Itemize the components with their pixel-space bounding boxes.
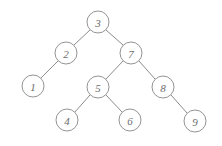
node-label-7: 7 [128, 48, 134, 60]
tree-node-8: 8 [152, 76, 174, 98]
node-layer: 327158469 [22, 11, 206, 132]
tree-node-2: 2 [55, 42, 77, 64]
node-label-8: 8 [160, 82, 166, 94]
tree-edge-n8-n9 [171, 95, 187, 113]
tree-edge-n7-n5 [106, 61, 123, 79]
tree-edge-n3-n7 [106, 30, 123, 45]
tree-node-3: 3 [87, 11, 109, 33]
tree-canvas: 327158469 [0, 0, 222, 146]
node-label-5: 5 [95, 82, 101, 94]
node-label-4: 4 [64, 115, 70, 127]
node-label-1: 1 [30, 81, 36, 93]
node-label-6: 6 [127, 115, 133, 127]
tree-edge-n3-n2 [74, 30, 90, 45]
node-label-9: 9 [192, 116, 198, 128]
tree-node-6: 6 [119, 109, 141, 131]
binary-tree-diagram: 327158469 [0, 0, 222, 146]
tree-edge-n5-n4 [75, 95, 90, 112]
tree-edge-n5-n6 [106, 95, 122, 112]
node-label-3: 3 [94, 17, 101, 29]
tree-node-9: 9 [184, 110, 206, 132]
tree-edge-n2-n1 [41, 61, 58, 78]
tree-node-1: 1 [22, 75, 44, 97]
tree-node-7: 7 [120, 42, 142, 64]
node-label-2: 2 [63, 48, 69, 60]
tree-node-4: 4 [56, 109, 78, 131]
tree-node-5: 5 [87, 76, 109, 98]
tree-edge-n7-n8 [139, 61, 155, 79]
